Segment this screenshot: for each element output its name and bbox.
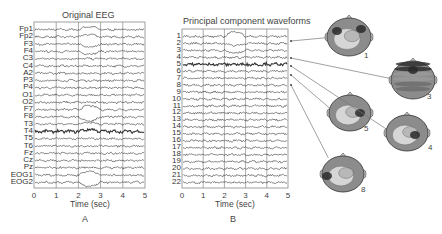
connector-arrow [291,85,328,158]
waveform-trace [183,160,287,163]
waveform-trace [35,122,144,125]
x-tick-label: 5 [143,191,147,200]
waveform-trace [183,181,287,183]
waveform-trace [35,58,144,60]
waveform-trace [35,167,144,170]
panel-a-xlabel: Time (sec) [70,199,110,209]
waveform-trace [35,65,144,68]
x-tick-label: 0 [180,191,184,200]
x-tick-label: 2 [222,191,226,200]
panel-a-label: A [82,214,88,224]
waveform-trace [35,43,144,48]
waveform-trace [35,72,144,75]
waveform-trace [183,56,287,58]
scalp-map-label: 8 [361,185,365,194]
waveform-trace [183,42,287,46]
waveform-trace [183,49,287,53]
scalp-map-label: 4 [428,143,432,152]
waveform-trace [35,50,144,55]
waveform-trace [183,126,287,129]
waveform-trace [35,116,144,122]
x-tick-label: 4 [265,191,269,200]
waveform-trace [183,119,287,122]
waveform-trace [183,62,287,66]
scalp-map-label: 3 [427,92,431,101]
waveform-trace [35,34,144,38]
waveform-trace [35,94,144,97]
x-tick-label: 3 [243,191,247,200]
waveform-trace [35,105,144,111]
x-tick-label: 3 [98,191,102,200]
waveform-trace [35,152,144,155]
waveform-trace [183,133,287,136]
waveform-trace [35,159,144,162]
waveform-trace [183,140,287,143]
x-tick-label: 4 [121,191,125,200]
waveform-trace [35,145,144,147]
x-tick-label: 5 [286,191,290,200]
waveform-trace [183,91,287,94]
waveform-trace [35,138,144,140]
waveform-trace [183,70,287,72]
scalp-map-5 [290,74,373,131]
waveform-trace [183,84,287,87]
panel-b-xlabel: Time (sec) [215,199,255,209]
waveform-trace [35,171,144,176]
waveform-trace [183,154,287,156]
waveform-trace [35,101,144,104]
x-tick-label: 1 [201,191,205,200]
waveform-trace [183,105,287,108]
panel_a-plot [34,22,145,188]
waveform-trace [183,167,287,170]
waveform-trace [183,77,287,79]
waveform-trace [35,87,144,89]
panel-b-label: B [230,214,236,224]
waveform-trace [35,129,144,134]
x-tick-label: 1 [54,191,58,200]
waveform-trace [183,112,287,114]
panel-b-title: Principal component waveforms [183,16,311,26]
scalp-map-label: 5 [364,124,368,133]
trace-label: EOG2 [3,178,33,186]
x-tick-label: 0 [32,191,36,200]
waveform-trace [183,98,287,101]
waveform-trace [183,31,287,38]
waveform-trace [35,79,144,81]
x-tick-label: 2 [76,191,80,200]
waveform-trace [35,181,144,187]
panel-a-title: Original EEG [62,10,115,20]
waveform-trace [183,174,287,177]
scalp-map-label: 1 [364,51,368,60]
waveform-trace [183,147,287,150]
trace-label: 22 [151,178,181,186]
waveform-trace [35,26,144,31]
panel_b-plot [182,29,288,188]
